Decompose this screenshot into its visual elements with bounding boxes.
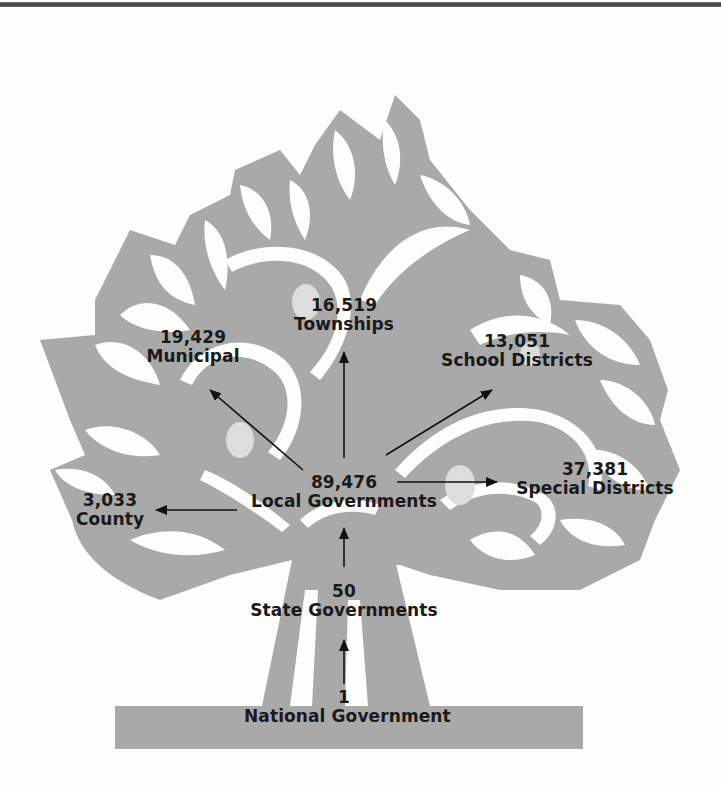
node-school: 13,051 School Districts — [432, 332, 602, 370]
node-label: Municipal — [133, 347, 253, 366]
node-count: 3,033 — [70, 491, 150, 510]
node-municipal: 19,429 Municipal — [133, 328, 253, 366]
node-count: 16,519 — [284, 296, 404, 315]
node-county: 3,033 County — [70, 491, 150, 529]
node-count: 13,051 — [432, 332, 602, 351]
node-label: National Government — [244, 707, 444, 726]
node-count: 1 — [244, 688, 444, 707]
node-label: County — [70, 510, 150, 529]
node-label: Special Districts — [510, 479, 680, 498]
node-count: 37,381 — [510, 460, 680, 479]
node-townships: 16,519 Townships — [284, 296, 404, 334]
node-state: 50 State Governments — [244, 582, 444, 620]
node-count: 19,429 — [133, 328, 253, 347]
node-count: 89,476 — [234, 473, 454, 492]
node-label: Local Governments — [234, 492, 454, 511]
node-label: Townships — [284, 315, 404, 334]
node-label: School Districts — [432, 351, 602, 370]
node-label: State Governments — [244, 601, 444, 620]
node-local: 89,476 Local Governments — [234, 473, 454, 511]
tree-illustration — [0, 0, 721, 787]
node-special: 37,381 Special Districts — [510, 460, 680, 498]
node-count: 50 — [244, 582, 444, 601]
node-national: 1 National Government — [244, 688, 444, 726]
tree-shape — [40, 95, 680, 749]
